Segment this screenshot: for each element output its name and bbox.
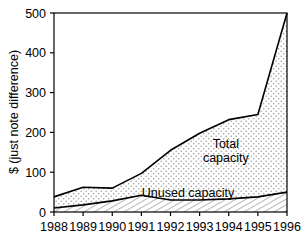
- y-tick-label: 300: [25, 86, 46, 100]
- series-annotation-label: capacity: [203, 151, 250, 165]
- x-tick-label: 1988: [40, 220, 68, 234]
- y-tick-label: 500: [25, 7, 46, 21]
- y-tick-label: 100: [25, 166, 46, 180]
- y-tick-label: 0: [39, 206, 46, 220]
- x-tick-label: 1990: [98, 220, 126, 234]
- plot-area: [54, 13, 287, 212]
- area-chart: 0100200300400500 19881989199019911992199…: [0, 0, 305, 242]
- series-annotation-label: Unused capacity: [142, 186, 235, 200]
- x-axis-ticks: 198819891990199119921993199419951996: [40, 212, 301, 234]
- chart-container: 0100200300400500 19881989199019911992199…: [0, 0, 305, 242]
- x-tick-label: 1992: [157, 220, 185, 234]
- x-tick-label: 1991: [127, 220, 155, 234]
- series-annotation-label: Total: [213, 137, 239, 151]
- y-tick-label: 200: [25, 126, 46, 140]
- y-tick-label: 400: [25, 46, 46, 60]
- x-tick-label: 1994: [215, 220, 243, 234]
- y-axis-ticks: 0100200300400500: [25, 7, 54, 220]
- x-tick-label: 1996: [273, 220, 301, 234]
- x-tick-label: 1993: [186, 220, 214, 234]
- y-axis-label: $ (just note difference): [7, 50, 21, 174]
- x-tick-label: 1989: [69, 220, 97, 234]
- x-tick-label: 1995: [244, 220, 272, 234]
